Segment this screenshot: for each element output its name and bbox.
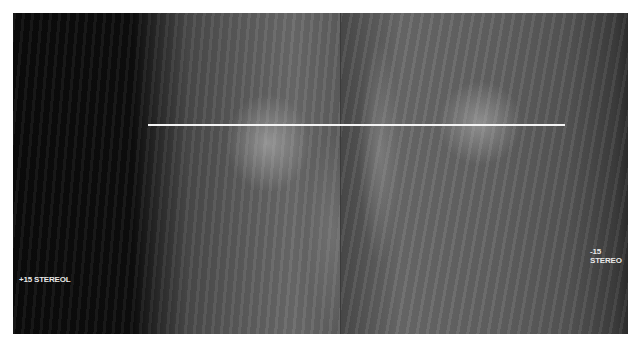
right-stereo-view <box>340 13 628 334</box>
stereo-divider <box>340 13 341 334</box>
mammogram-stereo-image: +15 STEREOL -15 STEREO <box>13 13 628 334</box>
left-stereo-view <box>13 13 340 334</box>
left-view-label: +15 STEREOL <box>19 275 70 284</box>
right-view-label: -15 STEREO <box>590 247 628 265</box>
horizontal-reference-line <box>148 124 565 126</box>
